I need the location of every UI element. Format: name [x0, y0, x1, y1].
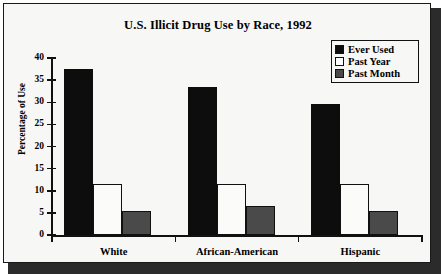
x-axis-category-label: Hispanic	[299, 246, 422, 257]
y-axis-tick-label: 0	[22, 230, 44, 239]
chart-figure: U.S. Illicit Drug Use by Race, 1992 Perc…	[0, 0, 441, 274]
y-axis-tick	[47, 102, 56, 104]
y-axis-tick	[47, 168, 56, 170]
x-axis-category-label: White	[52, 246, 175, 257]
y-axis-tick-label: 5	[22, 208, 44, 217]
bar	[122, 211, 151, 235]
bar	[311, 104, 340, 235]
bar	[93, 184, 122, 235]
y-axis-tick	[47, 79, 56, 81]
y-axis-tick	[47, 57, 56, 59]
chart-legend: Ever Used Past Year Past Month	[331, 40, 419, 83]
x-axis-line	[51, 235, 422, 237]
legend-item-past-month: Past Month	[335, 67, 415, 79]
y-axis-tick-label: 40	[22, 53, 44, 62]
bar	[246, 206, 275, 235]
y-axis-tick	[47, 146, 56, 148]
y-axis-tick-label: 15	[22, 164, 44, 173]
y-axis-tick-label: 20	[22, 142, 44, 151]
y-axis-tick-label: 30	[22, 97, 44, 106]
bar	[64, 69, 93, 235]
legend-swatch-ever-used	[335, 45, 344, 54]
y-axis-tick-label: 10	[22, 186, 44, 195]
bar	[217, 184, 246, 235]
legend-label-past-year: Past Year	[348, 56, 390, 67]
x-axis-category-label: African-American	[175, 246, 298, 257]
chart-plate: U.S. Illicit Drug Use by Race, 1992 Perc…	[3, 3, 431, 263]
y-axis-tick	[47, 124, 56, 126]
legend-label-past-month: Past Month	[348, 68, 400, 79]
bar	[340, 184, 369, 235]
y-axis-tick-label: 35	[22, 75, 44, 84]
bar	[369, 211, 398, 235]
legend-item-past-year: Past Year	[335, 55, 415, 67]
x-axis-tick	[175, 235, 177, 242]
legend-item-ever-used: Ever Used	[335, 43, 415, 55]
x-axis-tick	[421, 235, 423, 242]
x-axis-tick	[51, 235, 53, 242]
bar	[188, 87, 217, 235]
legend-swatch-past-year	[335, 57, 344, 66]
y-axis-tick-label: 25	[22, 119, 44, 128]
legend-label-ever-used: Ever Used	[348, 44, 394, 55]
legend-swatch-past-month	[335, 69, 344, 78]
y-axis-tick	[47, 212, 56, 214]
y-axis-tick	[47, 190, 56, 192]
x-axis-tick	[298, 235, 300, 242]
